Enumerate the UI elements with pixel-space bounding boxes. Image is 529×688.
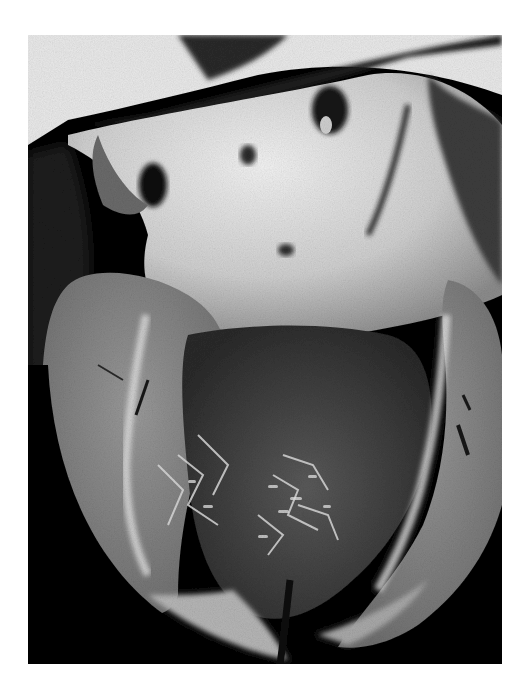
specimen-photo [28, 35, 502, 664]
heart-specimen-illustration [28, 35, 502, 664]
